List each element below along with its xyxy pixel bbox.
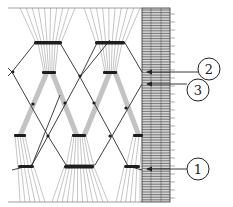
callout-2-label: 2 bbox=[205, 62, 213, 77]
diagonal-bundles bbox=[20, 72, 139, 136]
lattice-diagram: 2 3 1 bbox=[0, 0, 233, 207]
callout-3-label: 3 bbox=[194, 83, 202, 98]
diagram-canvas: 2 3 1 bbox=[0, 0, 233, 207]
callout-1-label: 1 bbox=[194, 162, 202, 177]
hatched-band bbox=[142, 8, 175, 202]
